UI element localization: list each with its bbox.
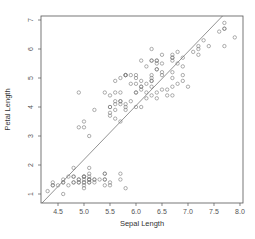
data-point: [129, 82, 132, 85]
data-point: [124, 187, 127, 190]
data-point: [129, 73, 132, 76]
data-point: [155, 68, 158, 71]
data-point: [150, 59, 153, 62]
x-tick-label: 8.0: [235, 208, 245, 215]
data-point: [155, 91, 158, 94]
data-point: [114, 117, 117, 120]
data-point: [134, 82, 137, 85]
y-axis: 1234567: [27, 18, 41, 196]
data-point: [155, 97, 158, 100]
data-point: [134, 91, 137, 94]
data-point: [139, 105, 142, 108]
data-point: [165, 88, 168, 91]
plot-frame: [41, 16, 243, 203]
data-point: [191, 50, 194, 53]
y-tick-label: 5: [27, 76, 34, 80]
data-point: [72, 175, 75, 178]
data-point: [119, 178, 122, 181]
regression-line: [42, 16, 222, 203]
scatter-chart: 4.55.05.56.06.57.07.58.0 1234567 Sepal L…: [0, 0, 255, 239]
data-point: [119, 172, 122, 175]
data-point: [98, 178, 101, 181]
y-tick-label: 2: [27, 163, 34, 167]
data-point: [217, 30, 220, 33]
y-axis-title: Petal Length: [3, 88, 12, 130]
data-point: [160, 88, 163, 91]
y-tick-label: 1: [27, 192, 34, 196]
data-point: [223, 27, 226, 30]
data-point: [88, 134, 91, 137]
data-point: [160, 62, 163, 65]
data-point: [108, 94, 111, 97]
y-tick-label: 7: [27, 18, 34, 22]
x-axis: 4.55.05.56.06.57.07.58.0: [53, 203, 245, 215]
data-point: [103, 184, 106, 187]
y-tick-label: 4: [27, 105, 34, 109]
x-tick-label: 5.0: [79, 208, 89, 215]
data-point: [108, 105, 111, 108]
data-point: [150, 94, 153, 97]
x-tick-label: 6.0: [131, 208, 141, 215]
data-point: [82, 120, 85, 123]
data-point: [82, 126, 85, 129]
data-point: [114, 79, 117, 82]
data-point: [207, 44, 210, 47]
data-point: [62, 192, 65, 195]
data-point: [119, 76, 122, 79]
data-point: [181, 65, 184, 68]
data-point: [139, 59, 142, 62]
data-point: [150, 47, 153, 50]
data-point: [202, 39, 205, 42]
data-point: [103, 91, 106, 94]
data-point: [197, 53, 200, 56]
data-point: [119, 91, 122, 94]
data-point: [129, 100, 132, 103]
data-point: [181, 73, 184, 76]
y-tick-label: 6: [27, 47, 34, 51]
data-point: [103, 172, 106, 175]
x-tick-label: 6.5: [157, 208, 167, 215]
data-point: [77, 91, 80, 94]
y-tick-label: 3: [27, 134, 34, 138]
x-tick-label: 5.5: [105, 208, 115, 215]
data-point: [176, 50, 179, 53]
data-point: [186, 85, 189, 88]
data-point: [145, 97, 148, 100]
data-point: [171, 94, 174, 97]
data-point: [160, 53, 163, 56]
data-point: [139, 79, 142, 82]
data-point: [77, 126, 80, 129]
data-point: [171, 71, 174, 74]
x-tick-label: 7.5: [209, 208, 219, 215]
data-point: [233, 36, 236, 39]
data-point: [72, 181, 75, 184]
data-point: [165, 94, 168, 97]
x-axis-title: Sepal Length: [120, 219, 164, 228]
data-point: [171, 76, 174, 79]
data-point: [88, 166, 91, 169]
data-point: [171, 85, 174, 88]
data-point: [145, 82, 148, 85]
data-point: [223, 21, 226, 24]
data-point: [176, 82, 179, 85]
data-point: [103, 178, 106, 181]
data-point: [93, 108, 96, 111]
data-point: [124, 73, 127, 76]
data-point: [223, 44, 226, 47]
data-point: [46, 189, 49, 192]
data-point: [145, 65, 148, 68]
data-point: [67, 184, 70, 187]
data-point: [181, 79, 184, 82]
data-point: [114, 91, 117, 94]
data-point: [114, 108, 117, 111]
x-tick-label: 7.0: [183, 208, 193, 215]
x-tick-label: 4.5: [53, 208, 63, 215]
